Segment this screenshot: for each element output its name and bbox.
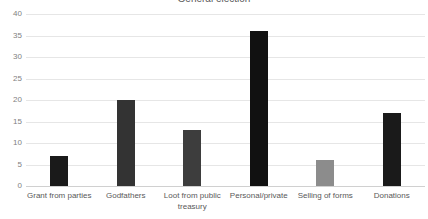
x-axis-category-label: Donations [359, 190, 426, 201]
y-axis-tick-label: 15 [0, 118, 22, 126]
bar [117, 100, 135, 186]
gridline [26, 186, 425, 187]
plot-area [26, 14, 425, 186]
y-axis-tick-label: 40 [0, 10, 22, 18]
gridline [26, 165, 425, 166]
y-axis-tick-label: 35 [0, 32, 22, 40]
x-axis-category-label: Personal/private [226, 190, 293, 201]
bar [383, 113, 401, 186]
x-axis-category-label: Godfathers [93, 190, 160, 201]
y-axis-tick-label: 25 [0, 75, 22, 83]
bar [316, 160, 334, 186]
bar [50, 156, 68, 186]
bar [250, 31, 268, 186]
x-axis-category-label: Grant from parties [26, 190, 93, 201]
gridline [26, 143, 425, 144]
y-axis-tick-label: 20 [0, 96, 22, 104]
y-axis-tick-label: 5 [0, 161, 22, 169]
y-axis-tick-label: 10 [0, 139, 22, 147]
bar-chart: General election 0510152025303540 Grant … [0, 0, 428, 219]
gridline [26, 36, 425, 37]
gridline [26, 57, 425, 58]
chart-title: General election [0, 0, 428, 4]
gridline [26, 14, 425, 15]
y-axis-tick-label: 0 [0, 182, 22, 190]
y-axis-tick-label: 30 [0, 53, 22, 61]
gridline [26, 79, 425, 80]
gridline [26, 100, 425, 101]
gridline [26, 122, 425, 123]
x-axis-category-label: Selling of forms [292, 190, 359, 201]
x-axis-category-label: Loot from public treasury [159, 190, 226, 212]
bar [183, 130, 201, 186]
